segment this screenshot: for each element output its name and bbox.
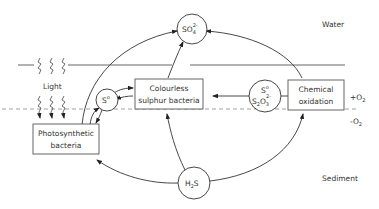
node-sulphur-thiosulphate: So S2O32- (249, 80, 281, 112)
node-colourless-sulphur-bacteria: Colourless sulphur bacteria (135, 79, 203, 109)
arrow-photosynthetic-to-sulphate (82, 31, 177, 125)
arrow-s0-to-photosynthetic (96, 110, 102, 123)
arrow-chemical-to-sulphate (206, 31, 302, 78)
svg-text:bacteria: bacteria (51, 141, 82, 150)
oxic-label: +O2 (350, 93, 365, 103)
anoxic-label: -O2 (350, 117, 362, 127)
node-chemical-oxidation: Chemical oxidation (288, 80, 344, 110)
node-elemental-sulphur: So (96, 89, 118, 111)
node-hydrogen-sulphide: H2S (178, 167, 210, 199)
arrow-photosynthetic-to-s0 (90, 108, 99, 125)
sulphur-cycle-diagram: SO42- H2S So So S2O32- Photosynthetic ba… (0, 0, 379, 209)
arrow-h2s-to-chemical (210, 114, 303, 181)
arrow-colourless-to-s0 (116, 96, 133, 99)
arrow-h2s-to-colourless (167, 114, 185, 170)
arrow-h2s-to-photosynthetic (97, 160, 178, 183)
light-label: Light (43, 82, 62, 91)
node-sulphate: SO42- (177, 14, 207, 44)
svg-text:sulphur bacteria: sulphur bacteria (138, 96, 199, 105)
svg-text:Chemical: Chemical (299, 85, 334, 94)
svg-text:Photosynthetic: Photosynthetic (38, 129, 94, 138)
zone-sediment-label: Sediment (322, 174, 358, 183)
node-photosynthetic-bacteria: Photosynthetic bacteria (33, 124, 99, 154)
arrow-colourless-to-sulphate (168, 42, 183, 78)
zone-water-label: Water (322, 20, 345, 29)
svg-text:Colourless: Colourless (150, 84, 189, 93)
arrow-s0-to-colourless (114, 88, 133, 93)
svg-text:oxidation: oxidation (299, 97, 334, 106)
